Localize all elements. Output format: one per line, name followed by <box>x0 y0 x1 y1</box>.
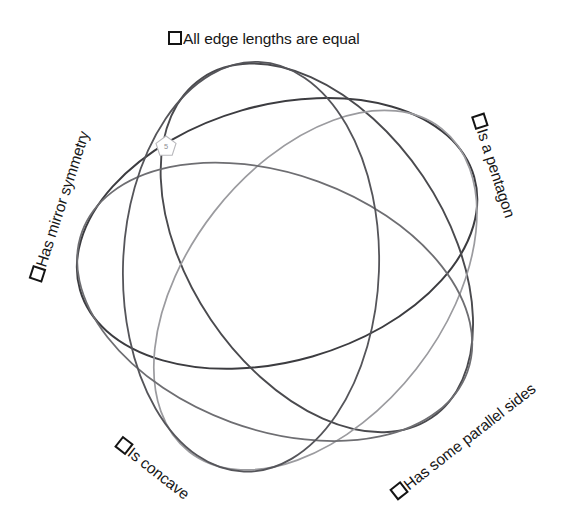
venn-ellipse-set <box>38 6 542 530</box>
pentagon-icon: 5 <box>154 134 178 158</box>
curve-has-mirror-symmetry <box>116 57 386 476</box>
curve-all-edge-lengths-are-equal <box>45 54 510 413</box>
checkbox-all-edge-lengths-are-equal[interactable] <box>168 31 182 45</box>
venn-curves-group <box>0 0 570 531</box>
set-label-all-edge-lengths-are-equal[interactable]: All edge lengths are equal <box>168 31 360 47</box>
venn-diagram-canvas: 5 All edge lengths are equal Is a pentag… <box>0 0 570 531</box>
set-label-text: All edge lengths are equal <box>183 31 360 47</box>
curve-is-concave <box>38 111 511 492</box>
pentagon-marker-value: 5 <box>164 142 168 151</box>
pentagon-region-marker: 5 <box>154 134 178 158</box>
